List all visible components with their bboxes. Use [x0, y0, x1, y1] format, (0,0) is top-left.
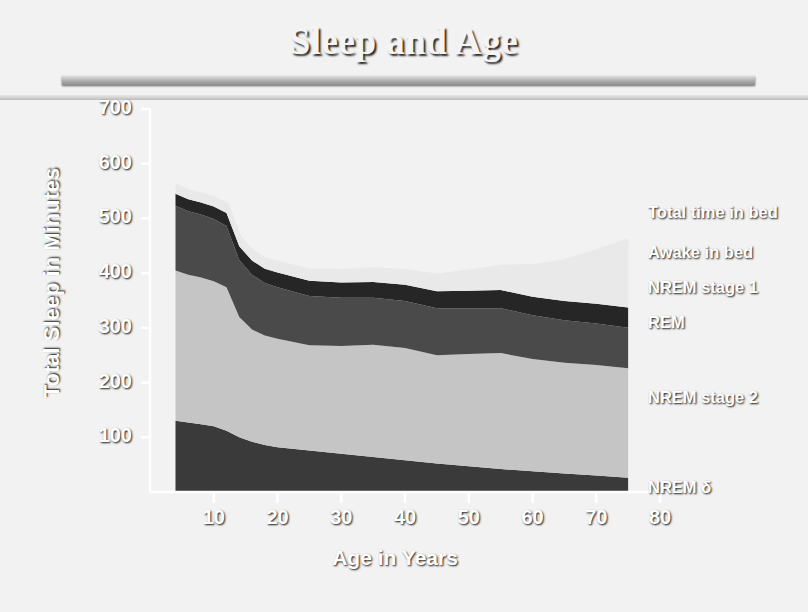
- y-tick-label: 600: [72, 151, 132, 174]
- legend-item-awake-in-bed: Awake in bed: [648, 243, 753, 262]
- x-tick-label: 10: [194, 506, 234, 529]
- page-title: Sleep and Age: [0, 20, 808, 63]
- x-tick-label: 30: [321, 506, 361, 529]
- y-axis-title: Total Sleep in Minutes: [39, 143, 65, 423]
- y-tick-label: 200: [72, 370, 132, 393]
- legend-item-nrem: NREM δ: [648, 478, 711, 497]
- x-tick-label: 20: [258, 506, 298, 529]
- x-tick-label: 40: [385, 506, 425, 529]
- y-tick-label: 300: [72, 315, 132, 338]
- x-axis-title: Age in Years: [150, 546, 640, 570]
- x-tick-label: 80: [640, 506, 680, 529]
- title-underline-bar: [62, 76, 755, 85]
- y-tick-label: 700: [72, 96, 132, 119]
- y-tick-label: 100: [72, 424, 132, 447]
- slide: Sleep and Age Total Sleep in Minutes Age…: [0, 0, 808, 612]
- x-tick-label: 50: [449, 506, 489, 529]
- x-tick-label: 60: [513, 506, 553, 529]
- legend-item-nrem-stage-2: NREM stage 2: [648, 388, 758, 407]
- y-tick-label: 500: [72, 205, 132, 228]
- legend-item-rem: REM: [648, 313, 685, 332]
- x-tick-label: 70: [576, 506, 616, 529]
- legend-item-nrem-stage-1: NREM stage 1: [648, 278, 758, 297]
- sleep-and-age-chart: Total Sleep in Minutes Age in Years 1002…: [0, 100, 808, 603]
- legend-item-total-time-in-bed: Total time in bed: [648, 203, 778, 222]
- y-tick-label: 400: [72, 260, 132, 283]
